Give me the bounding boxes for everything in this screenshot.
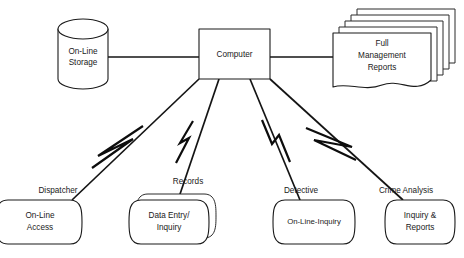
break-symbol-dispatcher-icon — [92, 126, 143, 168]
reports-label-line2: Management — [358, 51, 407, 60]
crime-analysis-terminal-label-line2: Reports — [406, 223, 435, 232]
node-detective-terminal[interactable]: On-Line-Inquiry — [273, 200, 355, 244]
reports-label-line3: Reports — [368, 63, 397, 72]
node-online-storage[interactable]: On-Line Storage — [58, 19, 108, 89]
crime-analysis-terminal-label-line1: Inquiry & — [404, 211, 437, 220]
terminal-shape-crime-analysis — [385, 200, 455, 244]
cylinder-top — [58, 19, 108, 39]
terminal-shape-records-front — [129, 200, 209, 244]
computer-label: Computer — [217, 50, 253, 59]
diagram-svg: On-Line Storage Computer Full Management… — [0, 0, 464, 258]
break-symbol-records-icon — [176, 121, 193, 163]
online-storage-label-line1: On-Line — [68, 47, 98, 56]
records-terminal-label-line2: Inquiry — [157, 223, 182, 232]
terminal-shape-dispatcher — [0, 200, 82, 244]
node-records-terminal[interactable]: Data Entry/ Inquiry — [129, 194, 216, 244]
edge-label-crime-analysis: Crime Analysis — [379, 186, 433, 195]
diagram-canvas: On-Line Storage Computer Full Management… — [0, 0, 464, 258]
node-computer[interactable]: Computer — [199, 29, 270, 79]
dispatcher-terminal-label-line1: On-Line — [25, 211, 55, 220]
node-dispatcher-terminal[interactable]: On-Line Access — [0, 200, 82, 244]
records-terminal-label-line1: Data Entry/ — [149, 211, 191, 220]
break-symbol-crime-analysis-icon — [306, 128, 356, 160]
edge-label-dispatcher: Dispatcher — [38, 186, 77, 195]
online-storage-label-line2: Storage — [69, 58, 98, 67]
node-crime-analysis-terminal[interactable]: Inquiry & Reports — [385, 200, 455, 244]
dispatcher-terminal-label-line2: Access — [27, 223, 53, 232]
edge-label-detective: Detective — [284, 186, 319, 195]
detective-terminal-label-line1: On-Line-Inquiry — [287, 217, 341, 226]
node-full-management-reports[interactable]: Full Management Reports — [333, 9, 455, 88]
edge-label-records: Records — [173, 177, 204, 186]
reports-label-line1: Full — [375, 39, 388, 48]
